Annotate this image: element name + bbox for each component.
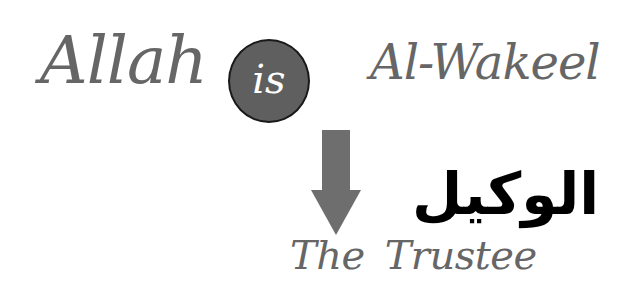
word-allah: Allah bbox=[40, 22, 207, 99]
word-al-wakeel: Al-Wakeel bbox=[370, 34, 600, 90]
word-the: The bbox=[290, 232, 365, 278]
is-circle-badge: is bbox=[228, 39, 310, 123]
down-arrow-icon bbox=[311, 130, 361, 235]
word-is: is bbox=[252, 56, 285, 102]
translation-text: TheTrustee bbox=[290, 232, 537, 278]
arabic-term: الوكيل bbox=[412, 160, 599, 228]
word-trustee: Trustee bbox=[385, 232, 537, 278]
